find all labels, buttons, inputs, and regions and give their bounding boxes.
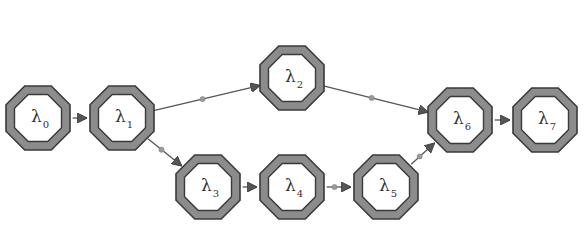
edge-n4-to-n5 [327, 184, 351, 189]
edge-line [323, 86, 427, 112]
node-label-subscript: 1 [127, 119, 133, 130]
node-lambda-5: λ5 [354, 155, 418, 219]
edge-n1-to-n3 [148, 139, 181, 166]
node-label-subscript: 4 [297, 188, 303, 199]
node-label-subscript: 3 [213, 188, 219, 199]
node-label-subscript: 5 [391, 188, 397, 199]
edge-midpoint-dot-icon [159, 147, 164, 152]
edge-midpoint-dot-icon [369, 95, 374, 100]
edge-line [148, 139, 181, 166]
edge-midpoint-dot-icon [417, 154, 422, 159]
node-lambda-4: λ4 [260, 155, 324, 219]
edge-midpoint-dot-icon [200, 96, 205, 101]
node-label-subscript: 7 [550, 121, 556, 132]
edge-midpoint-dot-icon [332, 184, 337, 189]
diagram-canvas: λ0λ1λ2λ3λ4λ5λ6λ7 [0, 0, 588, 229]
nodes-layer: λ0λ1λ2λ3λ4λ5λ6λ7 [6, 46, 577, 219]
node-label-subscript: 0 [43, 119, 49, 130]
node-lambda-2: λ2 [260, 46, 324, 110]
node-lambda-7: λ7 [513, 88, 577, 152]
node-lambda-0: λ0 [6, 86, 70, 150]
edge-n1-to-n2 [154, 86, 260, 111]
edge-line [411, 143, 434, 164]
edge-n2-to-n6 [323, 86, 427, 112]
node-label-subscript: 2 [297, 79, 303, 90]
node-label-subscript: 6 [465, 121, 471, 132]
node-lambda-1: λ1 [90, 86, 154, 150]
node-lambda-6: λ6 [428, 88, 492, 152]
edge-n5-to-n6 [411, 143, 434, 164]
edge-line [154, 86, 260, 111]
node-lambda-3: λ3 [176, 155, 240, 219]
